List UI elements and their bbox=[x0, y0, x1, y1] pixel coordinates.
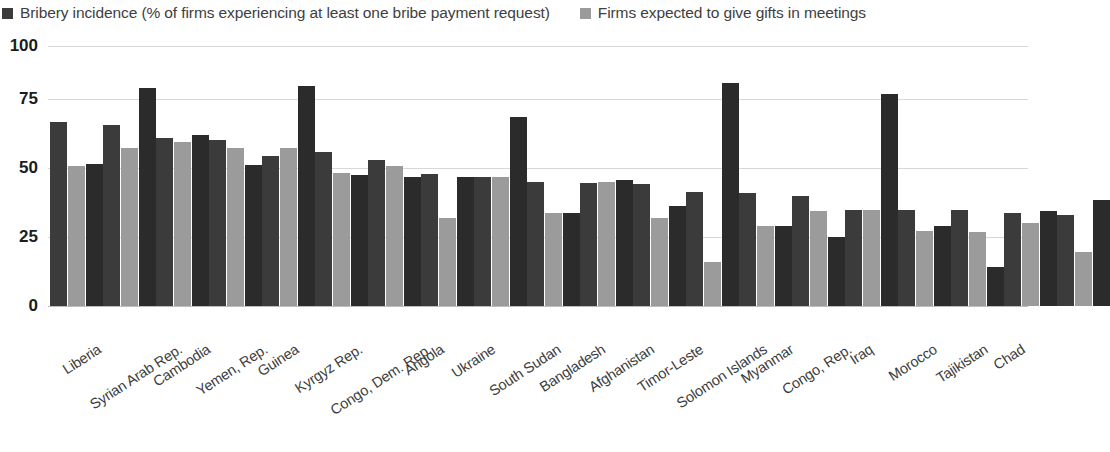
y-tick-label: 50 bbox=[19, 158, 38, 178]
x-axis: LiberiaSyrian Arab Rep.CambodiaYemen, Re… bbox=[48, 337, 1028, 452]
bar-group bbox=[527, 30, 580, 306]
bar-gifts-in-meetings bbox=[439, 218, 456, 306]
y-axis: 0 25 50 75 100 bbox=[0, 30, 44, 315]
legend-label: Bribery incidence (% of firms experienci… bbox=[20, 4, 550, 22]
bar-gifts-in-meetings bbox=[651, 218, 668, 306]
bar-secondary-dark bbox=[563, 213, 580, 306]
bar-gifts-in-meetings bbox=[969, 232, 986, 306]
x-label-slot: Iraq bbox=[831, 337, 880, 452]
x-tick-label: Chad bbox=[990, 341, 1027, 373]
bar-secondary-dark bbox=[86, 164, 103, 306]
x-label-slot: Bangladesh bbox=[538, 337, 587, 452]
x-label-slot: Kyrgyz Rep. bbox=[294, 337, 343, 452]
x-label-slot: Congo, Dem. Rep. bbox=[343, 337, 392, 452]
bar-bribery-incidence bbox=[1057, 215, 1074, 306]
x-label-slot: Chad bbox=[977, 337, 1026, 452]
bar-secondary-dark bbox=[245, 165, 262, 306]
bar-group bbox=[898, 30, 951, 306]
bar-secondary-dark bbox=[828, 237, 845, 306]
bar-bribery-incidence bbox=[1004, 213, 1021, 306]
bar-group bbox=[739, 30, 792, 306]
bar-secondary-dark bbox=[722, 83, 739, 306]
bar-group bbox=[1004, 30, 1057, 306]
bar-secondary-dark bbox=[298, 86, 315, 306]
y-tick-label: 100 bbox=[10, 36, 38, 56]
bar-bribery-incidence bbox=[156, 138, 173, 306]
bar-secondary-dark bbox=[139, 88, 156, 306]
x-label-slot: Cambodia bbox=[148, 337, 197, 452]
bar-gifts-in-meetings bbox=[174, 142, 191, 306]
x-label-slot: Angola bbox=[392, 337, 441, 452]
bar-group bbox=[421, 30, 474, 306]
x-label-slot: Afghanistan bbox=[587, 337, 636, 452]
bar-gifts-in-meetings bbox=[227, 148, 244, 306]
bar-secondary-dark bbox=[510, 117, 527, 306]
y-tick-label: 75 bbox=[19, 89, 38, 109]
x-label-slot: Myanmar bbox=[733, 337, 782, 452]
legend-swatch-icon bbox=[2, 8, 13, 19]
bar-secondary-dark bbox=[881, 94, 898, 306]
bar-gifts-in-meetings bbox=[916, 231, 933, 306]
bar-group bbox=[156, 30, 209, 306]
bar-gifts-in-meetings bbox=[121, 148, 138, 306]
x-label-slot: Morocco bbox=[880, 337, 929, 452]
x-label-slot: South Sudan bbox=[489, 337, 538, 452]
chart-legend: Bribery incidence (% of firms experienci… bbox=[0, 0, 1034, 26]
bar-group bbox=[103, 30, 156, 306]
x-label-slot: Congo, Rep. bbox=[782, 337, 831, 452]
bar-bribery-incidence bbox=[686, 192, 703, 306]
bar-bribery-incidence bbox=[898, 210, 915, 306]
x-label-slot: Solomon Islands bbox=[684, 337, 733, 452]
legend-label: Firms expected to give gifts in meetings bbox=[598, 4, 866, 22]
bar-gifts-in-meetings bbox=[492, 177, 509, 307]
bar-secondary-dark bbox=[404, 177, 421, 307]
bar-secondary-dark bbox=[669, 206, 686, 306]
bar-group bbox=[315, 30, 368, 306]
bar-gifts-in-meetings bbox=[68, 166, 85, 306]
x-tick-label: Iraq bbox=[847, 341, 876, 368]
bar-secondary-dark bbox=[1040, 211, 1057, 306]
bar-group bbox=[368, 30, 421, 306]
x-label-slot: Yemen, Rep. bbox=[196, 337, 245, 452]
bar-secondary-dark bbox=[775, 226, 792, 306]
bar-groups bbox=[48, 30, 1028, 306]
legend-item-bribery-incidence: Bribery incidence (% of firms experienci… bbox=[2, 4, 550, 22]
x-tick-label: Liberia bbox=[60, 341, 104, 377]
bar-secondary-dark bbox=[616, 180, 633, 306]
bar-group bbox=[845, 30, 898, 306]
x-label-slot: Guinea bbox=[245, 337, 294, 452]
grid-area bbox=[48, 30, 1028, 315]
bar-gifts-in-meetings bbox=[704, 262, 721, 306]
bar-bribery-incidence bbox=[580, 183, 597, 306]
bar-gifts-in-meetings bbox=[810, 211, 827, 306]
bar-bribery-incidence bbox=[527, 182, 544, 306]
bar-bribery-incidence bbox=[633, 184, 650, 306]
bar-bribery-incidence bbox=[209, 140, 226, 306]
bar-bribery-incidence bbox=[103, 125, 120, 306]
bar-secondary-dark bbox=[987, 267, 1004, 306]
bar-group bbox=[50, 30, 103, 306]
bar-group bbox=[209, 30, 262, 306]
bar-gifts-in-meetings bbox=[386, 166, 403, 306]
bar-secondary-dark bbox=[351, 175, 368, 306]
bar-gifts-in-meetings bbox=[598, 182, 615, 306]
gridline-baseline-0 bbox=[48, 306, 1028, 307]
bar-gifts-in-meetings bbox=[333, 173, 350, 306]
bar-bribery-incidence bbox=[474, 177, 491, 307]
bar-group bbox=[633, 30, 686, 306]
bar-bribery-incidence bbox=[792, 196, 809, 306]
bar-group bbox=[686, 30, 739, 306]
x-label-slot: Ukraine bbox=[440, 337, 489, 452]
legend-swatch-icon bbox=[580, 8, 591, 19]
y-tick-label: 25 bbox=[19, 227, 38, 247]
chart-plot-area: 0 25 50 75 100 LiberiaSyrian Arab Rep.Ca… bbox=[0, 30, 1034, 315]
bar-bribery-incidence bbox=[262, 156, 279, 306]
bar-bribery-incidence bbox=[739, 193, 756, 306]
legend-item-gifts-in-meetings: Firms expected to give gifts in meetings bbox=[580, 4, 866, 22]
bar-gifts-in-meetings bbox=[1022, 223, 1039, 306]
bar-bribery-incidence bbox=[50, 122, 67, 306]
bar-gifts-in-meetings bbox=[1075, 252, 1092, 306]
bar-secondary-dark bbox=[1093, 200, 1110, 306]
x-label-slot: Syrian Arab Rep. bbox=[99, 337, 148, 452]
bar-group bbox=[951, 30, 1004, 306]
